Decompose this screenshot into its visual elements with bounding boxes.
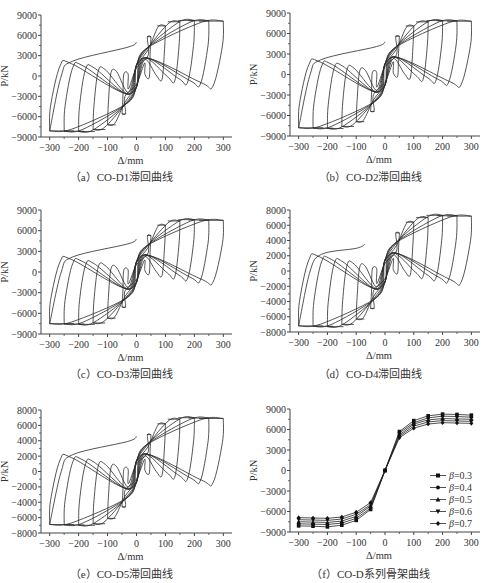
y-tick-label: 6000 bbox=[17, 420, 37, 431]
y-axis-label: P/kN bbox=[0, 261, 10, 283]
x-tick-label: 100 bbox=[158, 339, 173, 350]
hysteresis-loop-upper bbox=[64, 417, 209, 525]
y-tick-label: 2000 bbox=[266, 250, 286, 261]
hysteresis-loop-upper bbox=[64, 219, 209, 324]
hysteresis-loop-upper bbox=[298, 215, 471, 326]
chart-panel-a: −9000−6000−30000300060009000−300−200−100… bbox=[0, 0, 243, 194]
x-axis-label: Δ/mm bbox=[366, 154, 392, 165]
y-tick-label: −9000 bbox=[260, 527, 286, 538]
hysteresis-loop-lower bbox=[64, 418, 209, 526]
x-tick-label: −300 bbox=[288, 537, 309, 548]
y-tick-label: −6000 bbox=[11, 111, 37, 122]
hysteresis-loop-upper bbox=[298, 20, 471, 128]
caption-text: CO-D1滞回曲线 bbox=[97, 171, 173, 183]
x-tick-label: 200 bbox=[187, 142, 202, 153]
x-tick-label: 200 bbox=[187, 339, 202, 350]
y-tick-label: 0 bbox=[281, 266, 286, 277]
hysteresis-loop-lower bbox=[50, 220, 224, 324]
y-tick-label: 0 bbox=[281, 69, 286, 80]
legend-label: β=0.3 bbox=[448, 470, 472, 481]
hysteresis-plot-a: −9000−6000−30000300060009000−300−200−100… bbox=[0, 0, 243, 170]
y-tick-label: 0 bbox=[32, 466, 37, 477]
x-tick-label: 300 bbox=[216, 142, 231, 153]
x-tick-label: −100 bbox=[97, 538, 118, 549]
x-tick-label: 0 bbox=[383, 337, 388, 348]
hysteresis-loop-lower bbox=[50, 21, 224, 132]
x-tick-label: 100 bbox=[158, 142, 173, 153]
hysteresis-loop-upper bbox=[313, 215, 457, 327]
x-tick-label: −200 bbox=[68, 538, 89, 549]
y-tick-label: −6000 bbox=[11, 512, 37, 523]
chart-panel-e: −8000−6000−4000−200002000400060008000−30… bbox=[0, 395, 243, 583]
legend-label: β=0.5 bbox=[448, 494, 472, 505]
plot-curves bbox=[49, 417, 223, 526]
x-tick-label: 0 bbox=[134, 339, 139, 350]
final-unloading-branch bbox=[299, 244, 365, 326]
y-tick-label: 6000 bbox=[266, 220, 286, 231]
hysteresis-plot-e: −8000−6000−4000−200002000400060008000−30… bbox=[0, 395, 243, 565]
x-tick-label: 0 bbox=[134, 142, 139, 153]
caption-b: （b）CO-D2滞回曲线 bbox=[249, 168, 486, 184]
hysteresis-loop-lower bbox=[93, 22, 180, 130]
chart-panel-f: −9000−6000−30000300060009000−300−200−100… bbox=[249, 395, 486, 583]
hysteresis-loop-upper bbox=[49, 417, 223, 524]
plot-curves bbox=[296, 412, 473, 528]
x-tick-label: 0 bbox=[383, 537, 388, 548]
caption-text: CO-D2滞回曲线 bbox=[346, 171, 422, 183]
y-axis-label: P/kN bbox=[248, 459, 259, 481]
y-axis-label: P/kN bbox=[248, 260, 259, 282]
hysteresis-loop-lower bbox=[299, 216, 472, 327]
y-tick-label: 6000 bbox=[17, 30, 37, 41]
x-tick-label: 200 bbox=[435, 141, 450, 152]
hysteresis-loop-lower bbox=[299, 21, 472, 128]
caption-e: （e）CO-D5滞回曲线 bbox=[0, 565, 243, 581]
hysteresis-loop-upper bbox=[49, 219, 223, 323]
caption-d: （d）CO-D4滞回曲线 bbox=[249, 365, 486, 381]
hysteresis-plot-d: −8000−6000−4000−200002000400060008000−30… bbox=[249, 195, 486, 365]
caption-text: CO-D系列骨架曲线 bbox=[337, 568, 430, 580]
legend-label: β=0.7 bbox=[448, 518, 472, 529]
legend-value: =0.3 bbox=[454, 470, 472, 481]
x-tick-label: 100 bbox=[406, 337, 421, 348]
hysteresis-loop-lower bbox=[50, 419, 224, 526]
caption-a: （a）CO-D1滞回曲线 bbox=[0, 168, 243, 184]
x-tick-label: −100 bbox=[97, 339, 118, 350]
y-tick-label: −6000 bbox=[260, 506, 286, 517]
hysteresis-loop-lower bbox=[342, 218, 428, 325]
x-tick-label: 0 bbox=[383, 141, 388, 152]
y-tick-label: −4000 bbox=[260, 296, 286, 307]
marker-diamond-icon bbox=[469, 421, 473, 426]
x-tick-label: −100 bbox=[346, 337, 367, 348]
legend-value: =0.4 bbox=[454, 482, 472, 493]
caption-prefix: （e） bbox=[70, 568, 97, 580]
y-tick-label: −3000 bbox=[260, 486, 286, 497]
caption-text: CO-D3滞回曲线 bbox=[97, 368, 173, 380]
plot-curves bbox=[298, 214, 471, 327]
y-tick-label: −2000 bbox=[11, 481, 37, 492]
x-tick-label: 300 bbox=[464, 337, 479, 348]
hysteresis-loop-upper bbox=[79, 19, 195, 131]
x-tick-label: 200 bbox=[435, 537, 450, 548]
caption-prefix: （f） bbox=[311, 568, 337, 580]
caption-text: CO-D5滞回曲线 bbox=[97, 568, 173, 580]
hysteresis-loop-lower bbox=[327, 215, 442, 327]
hysteresis-plot-b: −9000−6000−30000300060009000−300−200−100… bbox=[249, 0, 486, 170]
x-tick-label: 0 bbox=[134, 538, 139, 549]
legend: β=0.3β=0.4β=0.5β=0.6β=0.7 bbox=[430, 470, 472, 529]
legend-value: =0.5 bbox=[454, 494, 472, 505]
x-axis-label: Δ/mm bbox=[117, 551, 143, 562]
caption-c: （c）CO-D3滞回曲线 bbox=[0, 365, 243, 381]
x-tick-label: 100 bbox=[406, 537, 421, 548]
y-tick-label: −6000 bbox=[260, 311, 286, 322]
legend-label: β=0.6 bbox=[448, 506, 472, 517]
x-tick-label: 100 bbox=[406, 141, 421, 152]
hysteresis-loop-upper bbox=[342, 217, 428, 325]
x-tick-label: 200 bbox=[187, 538, 202, 549]
y-tick-label: −2000 bbox=[260, 281, 286, 292]
y-tick-label: 4000 bbox=[266, 235, 286, 246]
marker-circle-icon bbox=[436, 486, 440, 490]
y-tick-label: −4000 bbox=[11, 497, 37, 508]
x-tick-label: −200 bbox=[317, 337, 338, 348]
x-tick-label: −300 bbox=[39, 538, 60, 549]
hysteresis-loop-upper bbox=[108, 224, 166, 318]
